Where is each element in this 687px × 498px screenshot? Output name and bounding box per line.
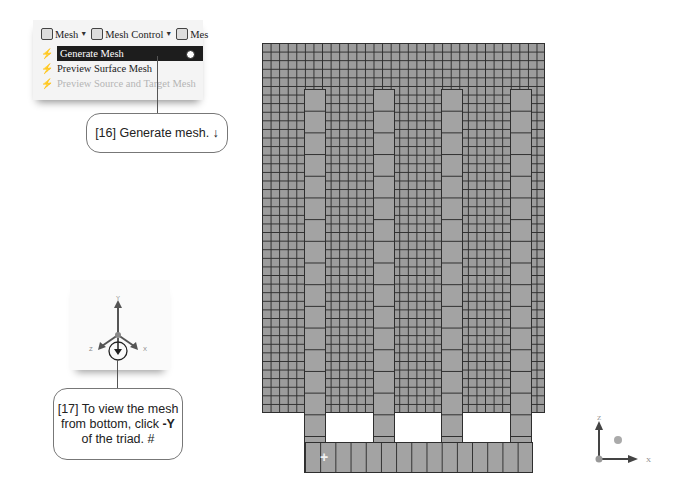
toolbar-mesh-control-button[interactable]: Mesh Control ▼ bbox=[91, 28, 172, 40]
callout-step-17: [17] To view the mesh from bottom, click… bbox=[53, 388, 183, 460]
menu-item-preview-source-target-mesh: ⚡ Preview Source and Target Mesh bbox=[41, 76, 203, 91]
down-arrow-icon: ↓ bbox=[213, 126, 219, 140]
mesh-icon bbox=[176, 28, 188, 40]
mesh-column-3 bbox=[441, 89, 463, 442]
mesh-column-4 bbox=[510, 89, 532, 442]
svg-text:Z: Z bbox=[89, 346, 93, 352]
toolbar-mesh-button[interactable]: Mesh ▼ bbox=[41, 28, 87, 40]
triad-neg-y-button[interactable] bbox=[113, 352, 127, 366]
global-triad[interactable]: Z X bbox=[590, 400, 680, 465]
chevron-down-icon: ▼ bbox=[80, 30, 87, 38]
mesh-dropdown-menu: ⚡ Generate Mesh ⚡ Preview Surface Mesh ⚡… bbox=[41, 46, 203, 91]
mesh-toolbar: Mesh ▼ Mesh Control ▼ Mes bbox=[41, 25, 208, 43]
menu-item-preview-surface-mesh[interactable]: ⚡ Preview Surface Mesh bbox=[41, 61, 203, 76]
hash-symbol: # bbox=[148, 432, 155, 446]
chevron-down-icon: ▼ bbox=[165, 30, 172, 38]
svg-text:Z: Z bbox=[597, 414, 601, 422]
callout-leader-line bbox=[157, 56, 158, 114]
mesh-menu-snapshot: Mesh ▼ Mesh Control ▼ Mes ⚡ Generate Mes… bbox=[33, 20, 203, 100]
preview-surface-mesh-icon: ⚡ bbox=[41, 63, 53, 74]
toolbar-mesh-extra-button[interactable]: Mes bbox=[176, 28, 208, 40]
callout-leader-line bbox=[117, 360, 118, 390]
menu-item-generate-mesh[interactable]: ⚡ Generate Mesh bbox=[41, 46, 203, 61]
mesh-column-1 bbox=[304, 89, 326, 442]
cursor-crosshair-icon: + bbox=[320, 449, 328, 465]
generate-mesh-icon: ⚡ bbox=[41, 48, 53, 59]
click-marker bbox=[186, 50, 195, 59]
callout-step-16: [16] Generate mesh. ↓ bbox=[86, 113, 228, 153]
svg-text:X: X bbox=[143, 346, 147, 352]
mesh-control-icon bbox=[91, 28, 103, 40]
svg-text:X: X bbox=[646, 456, 651, 464]
mesh-column-2 bbox=[373, 89, 395, 442]
mesh-icon bbox=[41, 28, 53, 40]
xz-axes-icon: Z X bbox=[590, 400, 680, 465]
mesh-bottom-bar bbox=[304, 442, 533, 473]
preview-source-target-icon: ⚡ bbox=[41, 78, 53, 89]
